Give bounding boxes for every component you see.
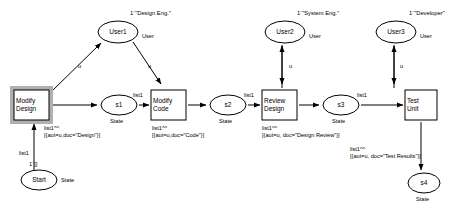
transition-modify_code[interactable] — [151, 90, 186, 120]
marking-label-m_user3: 1`"Developer" — [409, 10, 445, 16]
place-start[interactable] — [21, 170, 57, 190]
place-user2[interactable] — [265, 21, 305, 43]
place-user1[interactable] — [98, 21, 138, 43]
marking-label-m_user1: 1`"Design Eng." — [130, 10, 171, 16]
place-s3[interactable] — [323, 95, 359, 115]
place-s1[interactable] — [101, 95, 137, 115]
arc-expression-e_testresults: list1^^[{aut=u, doc="Test Results"}] — [350, 146, 421, 160]
arc-user1-to-modify-code — [133, 42, 161, 84]
arc-expression-e_designreview: list1^^[{aut=u, doc="Design Review"}] — [262, 125, 340, 139]
arc-label-a_s2_rd: list1 — [244, 92, 254, 98]
colour-set-label-cs_s2: State — [219, 118, 232, 124]
arc-expression-body-e_testresults: [{aut=u, doc="Test Results"}] — [350, 153, 421, 160]
colour-set-label-cs_user2: User — [309, 33, 321, 39]
arc-label-a_s3_tu: list1 — [357, 92, 367, 98]
place-user3[interactable] — [376, 21, 416, 43]
colour-set-label-cs_s4: State — [416, 196, 429, 202]
arc-label-a_start_md: list1 — [19, 150, 29, 156]
arc-label-a_u3_tu: u — [400, 63, 403, 69]
colour-set-label-cs_s3: State — [332, 118, 345, 124]
arc-expression-body-e_designreview: [{aut=u, doc="Design Review"}] — [262, 132, 340, 139]
transition-modify_design[interactable] — [14, 90, 49, 120]
transition-test_unit[interactable] — [405, 90, 437, 120]
place-s4[interactable] — [408, 173, 440, 193]
place-s2[interactable] — [210, 95, 246, 115]
arc-expression-head-e_testresults: list1^^ — [350, 146, 421, 153]
arc-expression-e_code: list1^^[{aut=u,doc="Code"}] — [152, 125, 204, 139]
places-group — [21, 21, 440, 193]
arc-label-a_u1_mc: u — [148, 63, 151, 69]
arc-expression-head-e_code: list1^^ — [152, 125, 204, 132]
arc-label-a_md_u1: u — [78, 63, 81, 69]
arc-label-a_s1_mc: list1 — [133, 92, 143, 98]
colour-set-label-cs_user1: User — [142, 33, 154, 39]
arc-expression-head-e_designreview: list1^^ — [262, 125, 340, 132]
arc-expression-body-e_design: [{aut=u,doc="Design"}] — [44, 132, 100, 139]
colour-set-label-cs_s1: State — [110, 118, 123, 124]
transition-review_design[interactable] — [262, 90, 297, 120]
colour-set-label-cs_start: State — [61, 177, 74, 183]
arc-modify-design-to-user1 — [50, 43, 101, 93]
arc-expression-e_design: list1^^[{aut=u,doc="Design"}] — [44, 125, 100, 139]
arc-expression-head-e_design: list1^^ — [44, 125, 100, 132]
marking-label-m_start: 1`[] — [29, 161, 37, 167]
cpn-diagram-canvas: User1User2User3Starts1s2s3s4Modify Desig… — [0, 0, 458, 210]
marking-label-m_user2: 1`"System Eng." — [297, 10, 339, 16]
colour-set-label-cs_user3: User — [420, 33, 432, 39]
arc-label-a_u2_rd: u — [289, 63, 292, 69]
arc-expression-body-e_code: [{aut=u,doc="Code"}] — [152, 132, 204, 139]
